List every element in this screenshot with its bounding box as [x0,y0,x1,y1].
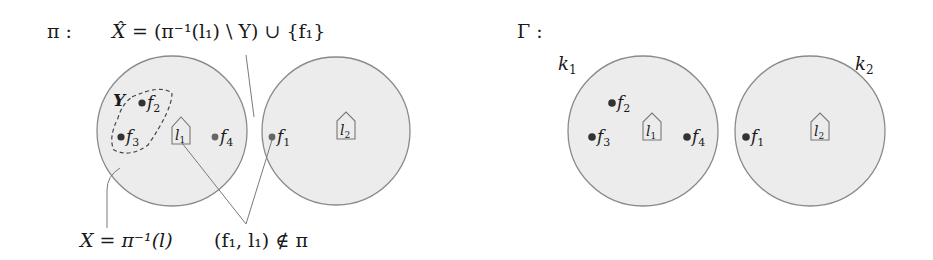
point-f2 [138,99,145,106]
gamma-point-f4 [683,133,691,141]
gamma-point-f2 [608,99,616,107]
point-f1 [269,134,276,141]
gamma-panel: Γ : k1 k2 f2 f3 l1 f4 f1 l2 [517,20,885,206]
subset-y-label: Y [113,90,127,110]
gamma-label: Γ : [517,20,543,42]
gamma-point-f3 [588,133,596,141]
xhat-definition: = (π⁻¹(l₁) \ Y) ∪ {f₁} [132,20,325,42]
k1-label: k1 [558,53,577,77]
pi-label: π : [47,20,72,42]
k2-label: k2 [855,53,874,77]
x-definition: X = π⁻¹(l) [78,229,173,251]
pi-cluster-2-circle [262,57,410,205]
pi-panel: π : X̂ = (π⁻¹(l₁) \ Y) ∪ {f₁} Y f2 f3 l1… [47,20,410,251]
xhat-symbol: X̂ [110,20,127,42]
diagram-canvas: π : X̂ = (π⁻¹(l₁) \ Y) ∪ {f₁} Y f2 f3 l1… [0,0,933,260]
point-f3 [117,133,124,140]
point-f4 [212,134,219,141]
f1-leader-line [246,140,272,224]
xhat-leader-line [246,55,254,117]
gamma-point-f1 [742,133,750,141]
not-in-pi-annotation: (f₁, l₁) ∉ π [214,229,308,251]
k2-circle [735,56,885,206]
